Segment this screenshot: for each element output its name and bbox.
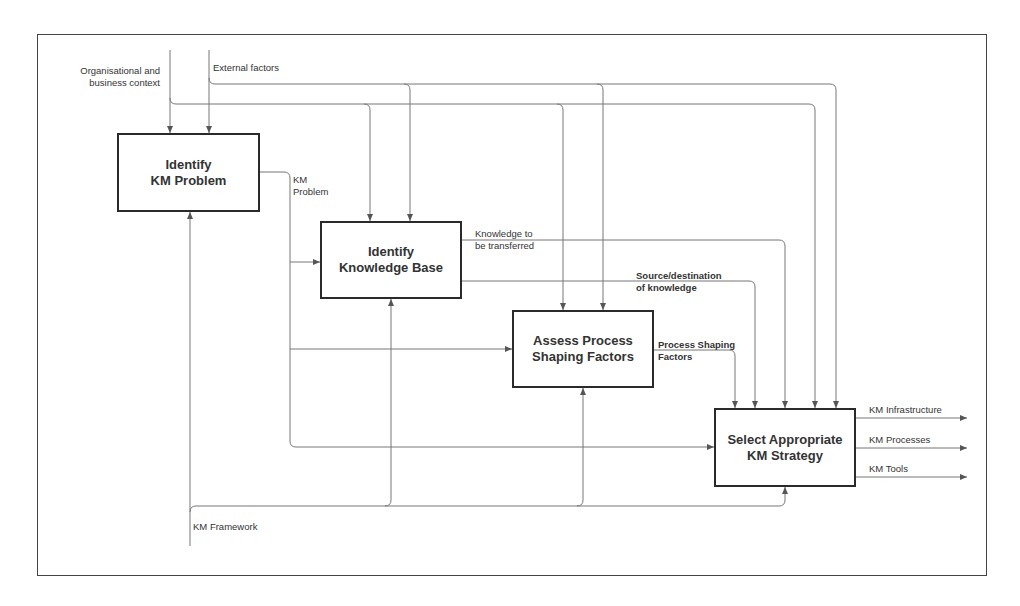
box-select-km-strategy: Select Appropriate KM Strategy — [714, 408, 856, 487]
diagram-canvas: Identify KM Problem Identify Knowledge B… — [0, 0, 1020, 606]
box-label: Identify KM Problem — [151, 157, 227, 189]
box-assess-process-shaping-factors: Assess Process Shaping Factors — [512, 310, 654, 388]
box-label: Select Appropriate KM Strategy — [727, 432, 842, 464]
label-external-factors: External factors — [213, 62, 279, 74]
box-label: Assess Process Shaping Factors — [532, 333, 634, 365]
label-process-shaping: Process Shaping Factors — [658, 339, 735, 363]
label-output-infrastructure: KM Infrastructure — [869, 404, 942, 416]
label-output-tools: KM Tools — [869, 463, 908, 475]
label-knowledge-to-transfer: Knowledge to be transferred — [475, 228, 534, 252]
box-identify-km-problem: Identify KM Problem — [117, 133, 260, 212]
label-source-destination: Source/destination of knowledge — [636, 270, 722, 294]
label-km-framework: KM Framework — [193, 521, 257, 533]
label-km-problem: KM Problem — [293, 174, 328, 198]
box-identify-knowledge-base: Identify Knowledge Base — [320, 221, 462, 299]
label-output-processes: KM Processes — [869, 434, 930, 446]
box-label: Identify Knowledge Base — [339, 244, 443, 276]
connector-lines — [0, 0, 1020, 606]
label-org-context: Organisational and business context — [60, 65, 160, 89]
